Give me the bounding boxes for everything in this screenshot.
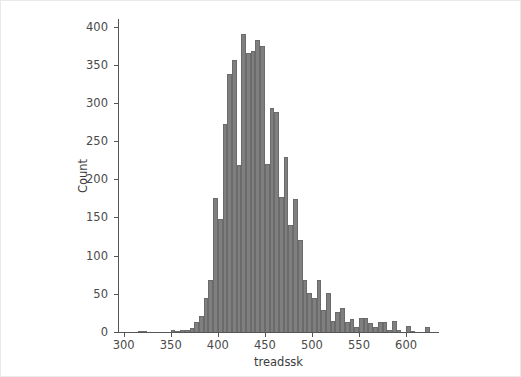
x-tick-mark [171, 333, 172, 337]
y-tick-mark [114, 256, 118, 257]
y-tick-mark [114, 217, 118, 218]
y-tick-mark [114, 179, 118, 180]
y-tick-mark [114, 103, 118, 104]
x-tick-label: 450 [254, 339, 276, 352]
x-tick-mark [312, 333, 313, 337]
y-tick-mark [114, 27, 118, 28]
y-tick-label: 50 [1, 287, 108, 300]
y-tick-mark [114, 332, 118, 333]
y-tick-mark [114, 294, 118, 295]
y-tick-label: 400 [1, 20, 108, 33]
x-tick-mark [265, 333, 266, 337]
histogram-bar [425, 327, 430, 332]
histogram-bars [119, 19, 439, 332]
x-tick-label: 500 [301, 339, 323, 352]
x-tick-label: 300 [113, 339, 135, 352]
y-tick-label: 150 [1, 211, 108, 224]
y-tick-label: 250 [1, 135, 108, 148]
y-tick-label: 300 [1, 96, 108, 109]
x-axis-label: treadssk [118, 355, 439, 369]
x-tick-mark [218, 333, 219, 337]
x-tick-label: 350 [160, 339, 182, 352]
histogram-figure: 300350400450500550600 050100150200250300… [0, 0, 521, 377]
x-tick-label: 600 [395, 339, 417, 352]
histogram-bar [411, 331, 416, 332]
y-tick-label: 100 [1, 249, 108, 262]
x-axis-spine [118, 332, 439, 333]
y-tick-label: 200 [1, 173, 108, 186]
y-tick-label: 0 [1, 326, 108, 339]
y-tick-mark [114, 65, 118, 66]
plot-area [119, 19, 439, 332]
x-tick-mark [406, 333, 407, 337]
x-tick-label: 550 [348, 339, 370, 352]
y-tick-label: 350 [1, 58, 108, 71]
y-tick-mark [114, 141, 118, 142]
histogram-bar [397, 330, 402, 332]
x-tick-mark [359, 333, 360, 337]
histogram-bar [143, 331, 148, 332]
x-tick-label: 400 [207, 339, 229, 352]
x-tick-mark [124, 333, 125, 337]
y-axis-label: Count [76, 159, 90, 193]
